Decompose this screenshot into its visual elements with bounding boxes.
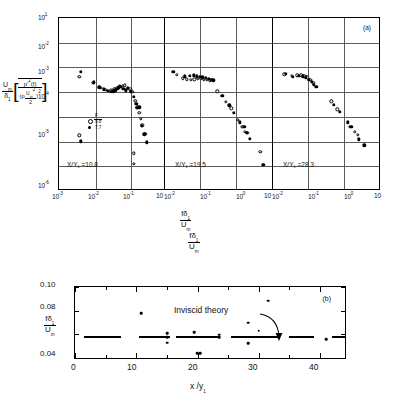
panel-b-xlab-text: x /y	[190, 381, 203, 391]
panel-a-xtick: 10-2	[272, 193, 283, 201]
gridline-v	[236, 18, 237, 189]
panel-a-legend: F 9.8 7.7	[87, 114, 102, 130]
theory-segment	[289, 336, 314, 338]
gridline-v	[344, 18, 345, 189]
data-point	[247, 322, 250, 325]
legend-marker-open	[87, 119, 94, 126]
panel-b-title-den: Um	[188, 242, 200, 253]
gridline-h	[59, 117, 379, 118]
theory-segment	[332, 336, 344, 338]
axis-tick	[289, 287, 290, 290]
panel-a-xtick: 10	[374, 193, 381, 200]
data-point	[140, 312, 143, 315]
axis-tick	[198, 287, 199, 292]
panel-b-x-axis-label: x /y1	[190, 382, 206, 393]
axis-tick	[259, 287, 260, 292]
axis-tick	[75, 311, 79, 312]
panel-b-xtick: 20	[188, 363, 197, 372]
data-point	[139, 117, 142, 120]
axis-tick	[136, 353, 137, 358]
axis-tick	[320, 287, 321, 292]
panel-a-xtick: 10-2	[88, 193, 99, 201]
data-point	[363, 143, 366, 146]
panel-a-ytick-1e-5: 10-5	[38, 131, 49, 139]
data-point	[132, 162, 135, 165]
panel-a-xtick: 10	[264, 193, 271, 200]
data-point	[221, 94, 224, 97]
panel-a-plot-area: (a) X/Y₁ =10.8 X/Y₁ =19.5 X/Y₁ =28.3	[58, 17, 380, 190]
panel-a-xtick: 10-1	[123, 193, 134, 201]
panel-a-xtick: 10-1	[308, 193, 319, 201]
axis-tick	[289, 355, 290, 358]
subpanel-label-3: X/Y₁ =28.3	[283, 161, 314, 168]
panel-a-label: (a)	[363, 24, 371, 31]
data-point	[242, 125, 245, 128]
theory-segment	[139, 336, 170, 338]
data-point	[132, 152, 135, 155]
axis-tick	[341, 334, 345, 335]
axis-tick	[136, 287, 137, 292]
axis-tick	[228, 287, 229, 290]
data-point	[143, 132, 146, 135]
subpanel-label-2: X/Y₁ =19.5	[175, 161, 206, 168]
axis-tick	[106, 355, 107, 358]
gridline-h	[59, 43, 379, 44]
gridline-h	[59, 166, 379, 167]
data-point	[350, 125, 353, 128]
data-point	[166, 332, 169, 335]
data-point	[145, 140, 148, 143]
figure-root: 101 10-2 10-3 10-4 10-5 10-6 Um δ1 [ p'2…	[0, 0, 396, 411]
subpanel-separator-1	[164, 18, 165, 189]
axis-tick	[341, 311, 345, 312]
data-point	[166, 342, 169, 345]
data-point	[259, 150, 262, 153]
y-label-um: Um	[2, 81, 13, 90]
gridline-h	[59, 142, 379, 143]
y-label-delta: δ1	[2, 91, 13, 101]
data-point	[175, 73, 178, 76]
inviscid-theory-annotation: Inviscid theory	[174, 306, 228, 315]
x-label-den: Um	[180, 220, 191, 231]
data-point	[140, 124, 143, 127]
panel-b-ytick-008: 0.08	[40, 303, 56, 311]
panel-a-ytick-1e1: 101	[38, 14, 47, 22]
axis-tick	[320, 353, 321, 358]
data-point	[267, 299, 270, 302]
panel-b-title: fδ1 Um	[188, 232, 200, 253]
data-point	[78, 75, 81, 78]
data-point	[297, 74, 300, 77]
y-label-pf: p'2(f)	[18, 78, 41, 87]
panel-a-xtick: 10-1	[200, 193, 211, 201]
panel-b-ytick-004: 0.04	[40, 350, 56, 358]
panel-a-xtick: 10-2	[164, 193, 175, 201]
data-point	[315, 85, 318, 88]
data-point	[291, 75, 294, 78]
data-point	[138, 105, 141, 108]
axis-tick	[198, 353, 199, 358]
subpanel-label-1: X/Y₁ =10.8	[67, 161, 98, 168]
axis-tick	[167, 287, 168, 290]
x-label-num: fδ1	[180, 210, 191, 220]
data-point	[78, 133, 81, 136]
panel-b-xtick: 0	[71, 363, 76, 372]
axis-tick	[167, 355, 168, 358]
data-point	[247, 342, 250, 345]
axis-tick	[106, 287, 107, 290]
axis-tick	[259, 353, 260, 358]
axis-tick	[341, 358, 345, 359]
panel-b-plot-area: (b)	[74, 286, 346, 359]
gridline-h	[59, 67, 379, 68]
panel-b-xtick: 10	[127, 363, 136, 372]
data-point	[79, 70, 82, 73]
panel-a-y-axis-label: Um δ1 [ p'2(f) (ρU∞22)2 ]	[2, 78, 47, 105]
panel-b-title-num: fδ1	[188, 232, 200, 242]
theory-segment	[84, 336, 121, 338]
panel-b-xlab-sub: 1	[203, 389, 206, 394]
panel-a-xtick: 100	[344, 193, 353, 201]
panel-a-x-axis-label: fδ1 Um	[180, 210, 191, 231]
axis-tick	[341, 287, 345, 288]
legend-value-filled: 7.7	[94, 126, 102, 131]
data-point	[199, 352, 202, 355]
data-point	[193, 331, 196, 334]
panel-a-ytick-1e-2: 10-2	[38, 43, 49, 51]
